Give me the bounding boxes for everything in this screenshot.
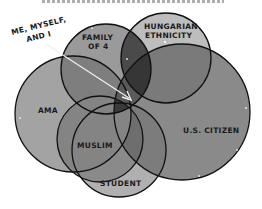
label-muslim: MUSLIM [77,141,113,150]
venn-diagram: ME, MYSELF, AND I FAMILY OF 4 HUNGARIAN … [0,0,262,209]
label-us-citizen: U.S. CITIZEN [183,126,239,135]
label-student: STUDENT [100,179,142,188]
label-hungarian-line1: HUNGARIAN [144,22,198,31]
label-family-of-4-line2: OF 4 [88,42,109,51]
label-ama: AMA [38,106,58,115]
label-family-of-4-line1: FAMILY [82,33,113,42]
label-hungarian-line2: ETHNICITY [145,31,192,40]
